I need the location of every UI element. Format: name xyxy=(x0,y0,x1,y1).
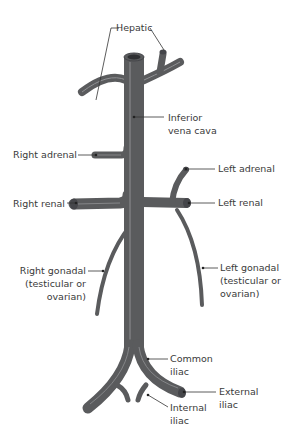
ivc-diagram: Hepatic Inferior vena cava Right adrenal… xyxy=(0,0,284,442)
label-right-gonadal-line1: Right gonadal xyxy=(20,265,86,276)
label-internal-iliac-line1: Internal xyxy=(170,402,207,413)
label-common-iliac-line1: Common xyxy=(170,353,213,364)
label-left-gonadal-line1: Left gonadal xyxy=(220,262,279,273)
label-right-renal: Right renal xyxy=(13,198,65,209)
label-ivc-line1: Inferior xyxy=(168,112,202,123)
gonadal-veins xyxy=(97,210,202,314)
label-right-gonadal-line2: (testicular or xyxy=(25,278,86,289)
label-common-iliac-line2: iliac xyxy=(170,366,189,377)
label-left-renal: Left renal xyxy=(218,197,263,208)
left-adrenal-vein xyxy=(172,167,189,203)
label-right-adrenal: Right adrenal xyxy=(13,149,77,160)
label-internal-iliac-line2: iliac xyxy=(170,415,189,426)
label-external-iliac-line2: iliac xyxy=(219,399,238,410)
label-left-adrenal: Left adrenal xyxy=(218,163,275,174)
label-left-gonadal-line2: (testicular or xyxy=(220,275,281,286)
label-external-iliac-line1: External xyxy=(219,386,258,397)
label-left-gonadal-line3: ovarian) xyxy=(220,288,259,299)
right-adrenal-vein xyxy=(95,148,127,155)
inferior-vena-cava xyxy=(124,53,144,352)
label-right-gonadal-line3: ovarian) xyxy=(47,291,86,302)
label-ivc-line2: vena cava xyxy=(168,125,217,136)
label-hepatic: Hepatic xyxy=(116,22,152,33)
